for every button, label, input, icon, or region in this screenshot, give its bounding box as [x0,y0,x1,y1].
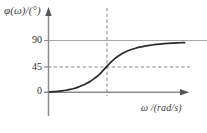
x-axis-label: ω /(rad/s) [141,103,182,113]
y-tick-label-90: 90 [22,35,42,45]
y-tick-label-0: 0 [22,86,42,96]
x-axis-arrow-icon [180,89,189,95]
y-axis-arrow-icon [45,7,51,16]
y-axis-label: φ(ω)/(°) [4,5,41,16]
y-tick-label-45: 45 [22,62,42,72]
phase-response-figure: φ(ω)/(°) ω /(rad/s) 90 45 0 [0,0,207,133]
